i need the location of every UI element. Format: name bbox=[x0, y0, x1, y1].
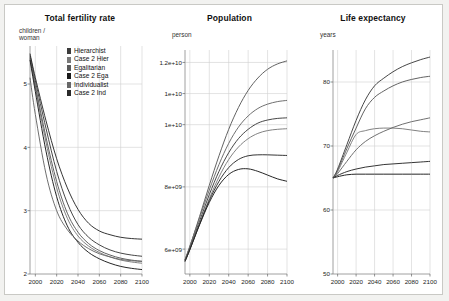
series-line bbox=[185, 100, 287, 259]
y-axis-tick-label: 4 bbox=[1, 144, 27, 151]
plot-area-population bbox=[185, 50, 287, 274]
y-axis-tick-label: 5 bbox=[1, 80, 27, 87]
chart-life-expectancy: Life expectancy years 200020202040206020… bbox=[304, 5, 442, 296]
y-axis-tick-label: 1e+10 bbox=[156, 121, 182, 128]
legend-label: Individualist bbox=[74, 81, 108, 89]
chart-title-life: Life expectancy bbox=[304, 13, 442, 23]
y-axis-unit-population: person bbox=[172, 31, 192, 38]
legend-swatch-icon bbox=[67, 90, 71, 96]
series-line bbox=[333, 161, 430, 178]
y-axis-tick-label: 1e+10 bbox=[156, 90, 182, 97]
series-line bbox=[185, 118, 287, 260]
legend-fertility: HierarchistCase 2 HierEgalitarianCase 2 … bbox=[67, 47, 109, 97]
y-axis-tick-label: 80 bbox=[304, 78, 330, 85]
y-axis-tick-label: 3 bbox=[1, 207, 27, 214]
x-axis-tick-label: 2020 bbox=[46, 278, 68, 285]
legend-label: Egalitarian bbox=[74, 64, 105, 72]
x-axis-tick-label: 2100 bbox=[131, 278, 153, 285]
legend-item: Egalitarian bbox=[67, 64, 109, 72]
y-axis-tick-label: 50 bbox=[304, 270, 330, 277]
legend-item: Case 2 Hier bbox=[67, 55, 109, 63]
series-line bbox=[333, 174, 430, 178]
x-axis-tick-label: 2080 bbox=[110, 278, 132, 285]
chart-total-fertility-rate: Total fertility rate children / woman Hi… bbox=[5, 5, 155, 296]
y-axis-unit-fertility: children / woman bbox=[19, 27, 45, 41]
series-line bbox=[185, 129, 287, 261]
legend-label: Case 2 Hier bbox=[74, 55, 109, 63]
legend-label: Case 2 Ega bbox=[74, 72, 108, 80]
y-axis-tick-label: 6e+09 bbox=[156, 246, 182, 253]
legend-swatch-icon bbox=[67, 65, 71, 71]
y-axis-tick-label: 2 bbox=[1, 270, 27, 277]
legend-item: Case 2 Ega bbox=[67, 72, 109, 80]
figure-panel: Total fertility rate children / woman Hi… bbox=[4, 4, 443, 295]
x-axis-tick-label: 2100 bbox=[276, 278, 298, 285]
series-line bbox=[30, 78, 142, 262]
x-axis-tick-label: 2100 bbox=[419, 278, 441, 285]
x-axis-tick-label: 2000 bbox=[24, 278, 46, 285]
legend-swatch-icon bbox=[67, 82, 71, 88]
plot-area-life bbox=[333, 50, 430, 274]
plot-svg-population bbox=[185, 50, 287, 274]
y-axis-tick-label: 70 bbox=[304, 142, 330, 149]
y-axis-unit-life: years bbox=[320, 31, 336, 38]
legend-item: Case 2 Ind bbox=[67, 89, 109, 97]
chart-title-population: Population bbox=[155, 13, 304, 23]
legend-label: Case 2 Ind bbox=[74, 89, 106, 97]
legend-label: Hierarchist bbox=[74, 47, 106, 55]
plot-svg-life bbox=[333, 50, 430, 274]
legend-item: Individualist bbox=[67, 81, 109, 89]
legend-swatch-icon bbox=[67, 73, 71, 79]
legend-item: Hierarchist bbox=[67, 47, 109, 55]
legend-swatch-icon bbox=[67, 57, 71, 63]
x-axis-tick-label: 2040 bbox=[67, 278, 89, 285]
y-axis-tick-label: 8e+09 bbox=[156, 183, 182, 190]
chart-title-fertility: Total fertility rate bbox=[5, 13, 155, 23]
y-axis-tick-label: 60 bbox=[304, 206, 330, 213]
chart-population: Population person 2000202020402060208021… bbox=[155, 5, 304, 296]
legend-swatch-icon bbox=[67, 48, 71, 54]
y-axis-tick-label: 1.2e+10 bbox=[156, 59, 182, 66]
x-axis-tick-label: 2060 bbox=[88, 278, 110, 285]
series-line bbox=[333, 128, 430, 178]
